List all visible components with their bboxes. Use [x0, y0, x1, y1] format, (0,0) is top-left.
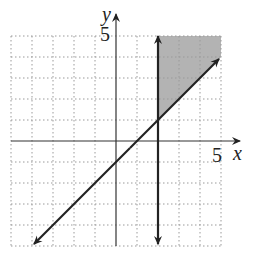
graph-canvas	[0, 0, 256, 259]
x-axis-label: x	[233, 143, 242, 163]
x-tick-label: 5	[212, 145, 222, 165]
y-tick-label: 5	[100, 24, 110, 44]
y-axis-label: y	[102, 4, 111, 24]
